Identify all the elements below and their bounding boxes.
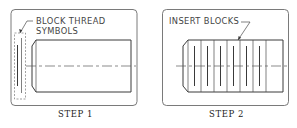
step1-block-boundary: [15, 33, 26, 99]
step2-caption: STEP 2: [209, 109, 244, 119]
thread-drawing-figure: BLOCK THREAD SYMBOLS STEP 1: [0, 0, 297, 128]
step2-panel: INSERT BLOCKS STEP 2: [163, 10, 289, 120]
step2-callout-line-1: INSERT BLOCKS: [169, 16, 239, 26]
step1-leader-line: [20, 21, 33, 33]
step1-caption: STEP 1: [58, 109, 93, 119]
step1-panel: BLOCK THREAD SYMBOLS STEP 1: [11, 10, 137, 120]
step1-callout-line-2: SYMBOLS: [36, 26, 78, 36]
step2-leader-arrowhead: [238, 36, 241, 40]
step1-callout-line-1: BLOCK THREAD: [36, 16, 106, 26]
